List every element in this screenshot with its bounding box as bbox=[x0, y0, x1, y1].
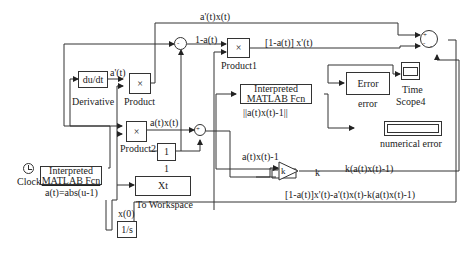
sum-block-1[interactable] bbox=[174, 37, 187, 50]
product-label: Product bbox=[124, 96, 155, 107]
constant-label: 1 bbox=[164, 163, 169, 174]
multiply-icon: × bbox=[134, 127, 140, 137]
to-workspace-block[interactable]: Xt bbox=[135, 176, 191, 196]
signal-a-prime: a'(t) bbox=[110, 67, 126, 78]
signal-feedback: [1-a(t)]x'(t)-a'(t)x(t)-k(a(t)x(t)-1) bbox=[285, 189, 415, 200]
error-block[interactable]: Error bbox=[346, 72, 390, 95]
integrator-ic-label: x(0) bbox=[118, 208, 135, 219]
signal-a-x: a(t)x(t) bbox=[150, 117, 178, 128]
numerical-error-display[interactable] bbox=[384, 121, 442, 136]
constant-block[interactable]: 1 bbox=[157, 143, 176, 161]
fcn-error-block[interactable]: Interpreted MATLAB Fcn bbox=[240, 84, 312, 104]
scope-label-1: Time bbox=[402, 84, 423, 95]
signal-one-minus-a-xprime: [1-a(t)] x'(t) bbox=[265, 37, 313, 48]
product1-block[interactable]: × bbox=[227, 38, 250, 58]
error-label: error bbox=[358, 98, 377, 109]
sum1-sign-left: - bbox=[177, 40, 179, 47]
integrator-text: 1/s bbox=[121, 225, 133, 235]
to-workspace-var: Xt bbox=[158, 181, 168, 191]
signal-a-x-minus-1: a(t)x(t)-1 bbox=[242, 151, 279, 162]
product-block[interactable]: × bbox=[129, 73, 151, 94]
signal-a-prime-x: a'(t)x(t) bbox=[200, 11, 230, 22]
product2-label: Product2 bbox=[120, 143, 156, 154]
display-value-field bbox=[387, 124, 439, 133]
clock-icon[interactable] bbox=[23, 163, 34, 174]
scope-label-2: Scope4 bbox=[396, 96, 425, 107]
signal-one-minus-a: 1-a(t) bbox=[195, 34, 217, 45]
sum-out-sign-2: - bbox=[423, 40, 425, 47]
to-workspace-label: To Workspace bbox=[136, 199, 193, 210]
time-scope-block[interactable] bbox=[401, 62, 420, 80]
fcn-a-line1: Interpreted bbox=[49, 166, 93, 176]
sum2-sign-left: + bbox=[196, 126, 200, 133]
fcn-error-line2: MATLAB Fcn bbox=[247, 94, 306, 104]
fcn-a-line2: MATLAB Fcn bbox=[42, 176, 101, 186]
simulink-diagram: du/dt Derivative × Product × Product1 × … bbox=[0, 0, 474, 254]
svg-text:k: k bbox=[281, 166, 286, 176]
error-text: Error bbox=[357, 79, 378, 89]
multiply-icon: × bbox=[236, 43, 242, 53]
gain-label: k bbox=[315, 167, 320, 178]
derivative-label: Derivative bbox=[72, 96, 114, 107]
derivative-text: du/dt bbox=[83, 75, 104, 85]
product1-label: Product1 bbox=[221, 60, 257, 71]
multiply-icon: × bbox=[137, 79, 143, 89]
clock-label: Clock bbox=[17, 176, 41, 187]
derivative-block[interactable]: du/dt bbox=[78, 71, 108, 88]
fcn-a-label: a(t)=abs(u-1) bbox=[45, 187, 98, 198]
fcn-a-block[interactable]: Interpreted MATLAB Fcn bbox=[40, 166, 102, 185]
display-label: numerical error bbox=[380, 138, 442, 149]
signal-k-term: k(a(t)x(t)-1) bbox=[345, 163, 393, 174]
integrator-block[interactable]: 1/s bbox=[117, 221, 137, 238]
product2-block[interactable]: × bbox=[126, 121, 147, 142]
gain-block[interactable]: k bbox=[278, 161, 300, 181]
scope-screen-icon bbox=[403, 67, 418, 76]
sum-out-sign-3: - bbox=[430, 43, 432, 50]
fcn-error-label: ||a(t)x(t)-1|| bbox=[243, 107, 288, 118]
constant-value: 1 bbox=[164, 147, 169, 157]
sum-out-sign-1: + bbox=[423, 32, 427, 39]
